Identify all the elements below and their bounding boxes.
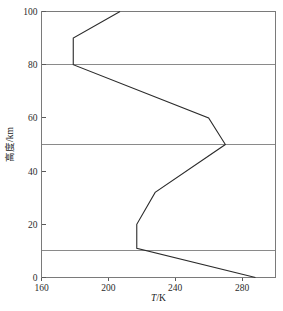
y-tick-label: 0 bbox=[33, 273, 38, 283]
y-tick-label: 80 bbox=[28, 60, 38, 70]
x-axis-title: T/K bbox=[151, 293, 166, 303]
x-axis-title-text: T/K bbox=[151, 293, 166, 303]
y-tick-label: 60 bbox=[28, 113, 38, 123]
y-tick-label: 40 bbox=[28, 167, 38, 177]
y-tick-label: 20 bbox=[28, 220, 38, 230]
y-axis-title: 高度/km bbox=[4, 127, 15, 162]
svg-text:高度/km: 高度/km bbox=[4, 127, 15, 162]
y-tick-label: 100 bbox=[23, 7, 38, 17]
x-tick-label: 280 bbox=[235, 283, 250, 293]
x-tick-label: 160 bbox=[34, 283, 49, 293]
chart-svg: 160200240280 020406080100 T/K 高度/km bbox=[0, 0, 283, 311]
temperature-profile-chart: 160200240280 020406080100 T/K 高度/km bbox=[0, 0, 283, 311]
x-tick-label: 200 bbox=[101, 283, 116, 293]
plot-background bbox=[0, 0, 283, 311]
x-tick-label: 240 bbox=[168, 283, 183, 293]
